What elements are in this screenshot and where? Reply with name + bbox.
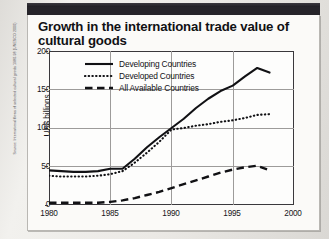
page-title: Growth in the international trade value … <box>38 20 306 47</box>
source-credit: Source: International flows of selected … <box>13 14 18 164</box>
x-tick-label: 1985 <box>95 209 125 218</box>
x-tick-label: 2000 <box>278 209 308 218</box>
x-tick-label: 1990 <box>156 209 186 218</box>
legend-label: Developed Countries <box>119 71 194 81</box>
y-tick-mark <box>45 205 48 206</box>
dotted-line-icon <box>84 71 114 81</box>
legend-label: Developing Countries <box>119 59 196 69</box>
legend-item-developing: Developing Countries <box>84 58 254 70</box>
series-line-developed <box>49 114 270 176</box>
dashed-line-icon <box>84 83 114 93</box>
legend-item-all-available: All Available Countries <box>84 82 254 94</box>
legend-label: All Available Countries <box>119 83 199 93</box>
y-tick-mark <box>45 166 48 167</box>
figure-card: Growth in the international trade value … <box>27 15 320 231</box>
solid-line-icon <box>84 59 114 69</box>
x-tick-label: 1995 <box>217 209 247 218</box>
y-tick-mark <box>45 51 48 52</box>
figure-container: Source: International flows of selected … <box>0 0 329 239</box>
header-band <box>27 3 320 15</box>
chart-legend: Developing Countries Developed Countries… <box>84 58 254 94</box>
legend-item-developed: Developed Countries <box>84 70 254 82</box>
x-tick-label: 1980 <box>34 209 64 218</box>
